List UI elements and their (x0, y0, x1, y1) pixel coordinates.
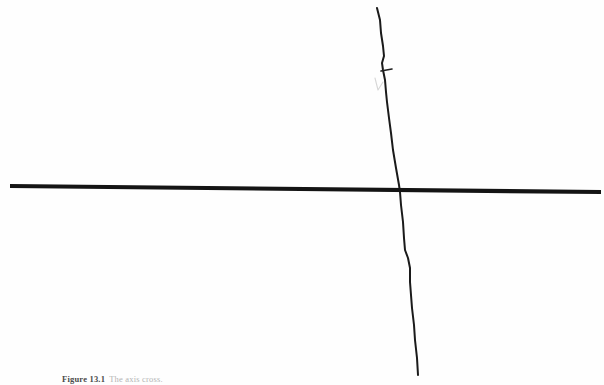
figure-page: Figure 13.1The axis cross. (0, 0, 604, 385)
figure-drawing-canvas (0, 0, 604, 385)
figure-caption-label: Figure 13.1 (62, 374, 105, 384)
figure-caption: Figure 13.1The axis cross. (62, 374, 482, 384)
figure-caption-text: The axis cross. (109, 374, 163, 384)
